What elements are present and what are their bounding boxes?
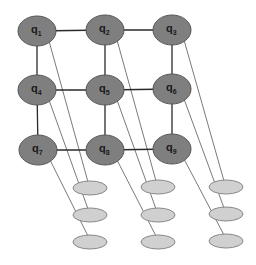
link-q2-g2 [117,40,156,181]
link-q7-g7 [50,160,88,236]
ghost-node-g8 [141,235,175,249]
ghost-node-g9 [209,234,243,248]
node-q7: q7 [19,135,57,165]
link-q3-g3 [184,40,224,181]
node-q4: q4 [18,75,56,105]
link-q8-g8 [117,160,156,236]
qubit-grid-diagram: q1q2q3q4q5q6q7q8q9 [0,0,256,265]
node-q3: q3 [153,15,191,45]
node-q8: q8 [86,135,124,165]
ghost-node-g2 [141,180,175,194]
node-q1: q1 [18,16,56,46]
link-q1-g1 [49,41,88,182]
ghost-node-g5 [141,208,175,222]
node-q9: q9 [153,134,191,164]
ghost-node-g7 [73,235,107,249]
projection-links [49,40,224,236]
node-q2: q2 [86,15,124,45]
node-q5: q5 [86,75,124,105]
node-q6: q6 [153,74,191,104]
ghost-node-g3 [209,180,243,194]
ghost-nodes [73,180,243,249]
qubit-nodes: q1q2q3q4q5q6q7q8q9 [18,15,191,165]
ghost-node-g1 [73,181,107,195]
link-q9-g9 [184,159,224,235]
ghost-node-g4 [73,208,107,222]
ghost-node-g6 [209,207,243,221]
